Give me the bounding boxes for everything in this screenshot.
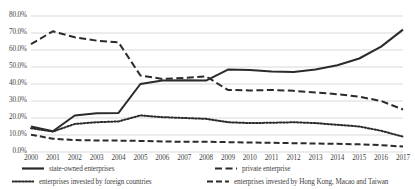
y-axis-tick: 70.0%: [0, 28, 27, 36]
y-axis-tick: 60.0%: [0, 45, 27, 53]
y-axis-tick: 50.0%: [0, 62, 27, 70]
legend-label: enterprises invested by Hong Kong, Macao…: [234, 178, 388, 186]
legend-item[interactable]: state-owned enterprises: [22, 163, 114, 174]
x-axis-tick: 2017: [390, 154, 415, 162]
y-axis-tick: 10.0%: [0, 130, 27, 138]
y-axis-tick: 80.0%: [0, 11, 27, 19]
chart-legend: state-owned enterprisesprivate enterpris…: [0, 162, 408, 189]
y-axis-tick: 20.0%: [0, 113, 27, 121]
legend-label: private enterprise: [242, 165, 290, 173]
legend-item[interactable]: enterprises invested by foreign countrie…: [12, 176, 151, 187]
legend-line-swatch-dashed: [215, 164, 237, 173]
legend-item[interactable]: enterprises invested by Hong Kong, Macao…: [207, 176, 388, 187]
legend-line-swatch-long-dashed: [207, 177, 229, 186]
legend-item[interactable]: private enterprise: [215, 163, 290, 174]
series-line-2: [31, 115, 403, 136]
y-axis-tick: 30.0%: [0, 96, 27, 104]
series-line-1: [31, 31, 403, 109]
series-lines: [31, 30, 403, 147]
series-line-0: [31, 30, 403, 132]
legend-line-swatch-solid: [22, 164, 44, 173]
y-axis-tick: 40.0%: [0, 79, 27, 87]
legend-label: state-owned enterprises: [49, 165, 114, 173]
series-line-3: [31, 135, 403, 147]
legend-label: enterprises invested by foreign countrie…: [39, 178, 151, 186]
legend-line-swatch-dotted: [12, 177, 34, 186]
